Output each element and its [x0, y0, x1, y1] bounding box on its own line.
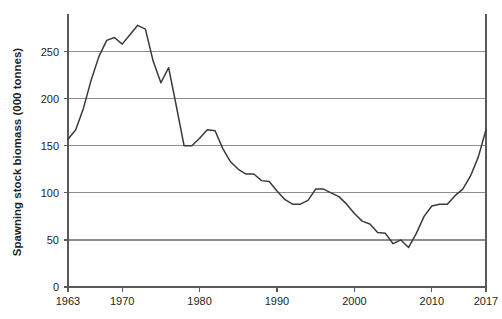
y-tick-label: 100	[41, 187, 59, 199]
x-tick-label: 1980	[187, 295, 211, 307]
x-tick-label: 2000	[342, 295, 366, 307]
y-tick-labels: 050100150200250	[41, 46, 68, 293]
y-tick-label: 200	[41, 93, 59, 105]
data-series-line	[68, 25, 486, 247]
x-tick-labels: 1963197019801990200020102017	[56, 295, 498, 307]
x-tick-marks	[68, 287, 486, 292]
gridlines-group	[68, 52, 486, 240]
y-tick-label: 150	[41, 140, 59, 152]
chart-figure: 050100150200250 196319701980199020002010…	[0, 0, 502, 319]
x-tick-label: 2010	[420, 295, 444, 307]
y-axis-title: Spawning stock biomass (000 tonnes)	[11, 48, 23, 256]
x-tick-label: 1970	[110, 295, 134, 307]
x-tick-label: 1963	[56, 295, 80, 307]
line-chart: 050100150200250 196319701980199020002010…	[0, 0, 502, 319]
x-tick-label: 1990	[265, 295, 289, 307]
y-tick-label: 0	[53, 281, 59, 293]
x-axis	[68, 14, 486, 287]
y-tick-label: 50	[47, 234, 59, 246]
x-tick-label: 2017	[474, 295, 498, 307]
y-tick-label: 250	[41, 46, 59, 58]
